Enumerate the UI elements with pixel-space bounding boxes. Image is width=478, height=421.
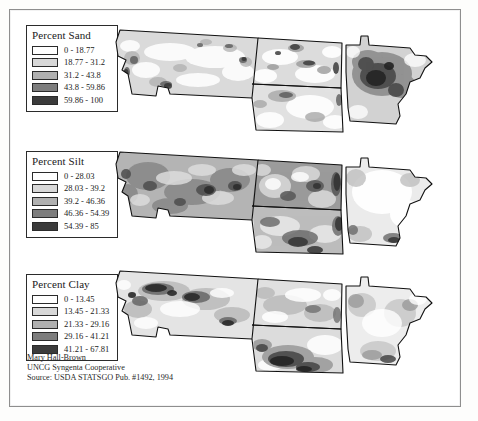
map-panel-sand: Percent Sand 0 - 18.77 18.77 - 31.2 31.2… <box>10 12 460 144</box>
legend-label: 0 - 18.77 <box>64 46 94 55</box>
legend-row: 21.33 - 29.16 <box>32 318 112 331</box>
credits-source: Source: USDA STATSGO Pub. #1492, 1994 <box>27 373 247 383</box>
legend-row: 0 - 18.77 <box>32 44 112 57</box>
legend-title-clay: Percent Clay <box>32 278 112 291</box>
legend-row: 46.36 - 54.39 <box>32 208 112 221</box>
legend-swatch <box>32 307 58 316</box>
legend-swatch <box>32 222 58 231</box>
figure-frame: Percent Sand 0 - 18.77 18.77 - 31.2 31.2… <box>9 9 461 407</box>
legend-row: 29.16 - 41.21 <box>32 331 112 344</box>
credits-organization: UNCG Syngenta Cooperative <box>27 363 247 373</box>
legend-swatch <box>32 332 58 341</box>
soil-texture-figure: Percent Sand 0 - 18.77 18.77 - 31.2 31.2… <box>0 0 478 421</box>
legend-label: 21.33 - 29.16 <box>64 320 109 329</box>
legend-swatch <box>32 96 58 105</box>
legend-row: 54.39 - 85 <box>32 220 112 233</box>
legend-row: 28.03 - 39.2 <box>32 183 112 196</box>
legend-sand: Percent Sand 0 - 18.77 18.77 - 31.2 31.2… <box>26 25 118 112</box>
legend-row: 13.45 - 21.33 <box>32 306 112 319</box>
legend-row: 18.77 - 31.2 <box>32 57 112 70</box>
legend-swatch <box>32 58 58 67</box>
legend-swatch <box>32 83 58 92</box>
legend-label: 29.16 - 41.21 <box>64 332 109 341</box>
legend-label: 31.2 - 43.8 <box>64 71 101 80</box>
choropleth-map-sand <box>110 12 458 144</box>
legend-label: 0 - 28.03 <box>64 172 94 181</box>
legend-row: 59.86 - 100 <box>32 94 112 107</box>
legend-row: 0 - 28.03 <box>32 170 112 183</box>
choropleth-map-silt <box>110 134 458 266</box>
legend-swatch <box>32 172 58 181</box>
legend-row: 31.2 - 43.8 <box>32 69 112 82</box>
legend-swatch <box>32 209 58 218</box>
legend-row: 43.8 - 59.86 <box>32 82 112 95</box>
legend-label: 13.45 - 21.33 <box>64 307 109 316</box>
legend-swatch <box>32 320 58 329</box>
legend-clay: Percent Clay 0 - 13.45 13.45 - 21.33 21.… <box>26 274 118 361</box>
legend-swatch <box>32 295 58 304</box>
legend-label: 43.8 - 59.86 <box>64 83 105 92</box>
credits-block: Mary Hall-Brown UNCG Syngenta Cooperativ… <box>27 353 247 384</box>
legend-swatch <box>32 184 58 193</box>
legend-swatch <box>32 197 58 206</box>
legend-swatch <box>32 71 58 80</box>
legend-row: 0 - 13.45 <box>32 293 112 306</box>
legend-title-silt: Percent Silt <box>32 155 112 168</box>
legend-label: 28.03 - 39.2 <box>64 184 105 193</box>
credits-author: Mary Hall-Brown <box>27 353 247 363</box>
map-panel-silt: Percent Silt 0 - 28.03 28.03 - 39.2 39.2… <box>10 134 460 266</box>
legend-label: 0 - 13.45 <box>64 295 94 304</box>
legend-swatch <box>32 46 58 55</box>
figure-caption-partial <box>150 409 350 419</box>
legend-silt: Percent Silt 0 - 28.03 28.03 - 39.2 39.2… <box>26 151 118 238</box>
legend-title-sand: Percent Sand <box>32 29 112 42</box>
legend-label: 59.86 - 100 <box>64 96 103 105</box>
legend-label: 54.39 - 85 <box>64 222 99 231</box>
legend-label: 46.36 - 54.39 <box>64 209 109 218</box>
legend-label: 18.77 - 31.2 <box>64 58 105 67</box>
legend-row: 39.2 - 46.36 <box>32 195 112 208</box>
legend-label: 39.2 - 46.36 <box>64 197 105 206</box>
